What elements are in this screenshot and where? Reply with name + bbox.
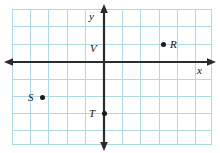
x-axis (4, 58, 216, 66)
point-dot-t (102, 111, 107, 116)
point-label-v: V (90, 43, 97, 54)
point-label-r: R (170, 39, 177, 50)
point-dot-s (40, 95, 45, 100)
coordinate-plane-figure: y x V R S T (0, 0, 220, 153)
point-label-t: T (89, 108, 95, 119)
y-axis-label: y (89, 11, 94, 22)
plot-canvas (0, 0, 220, 153)
point-dot-r (161, 42, 166, 47)
point-label-s: S (28, 92, 34, 103)
x-axis-label: x (197, 65, 202, 76)
grid-lines (12, 9, 212, 145)
